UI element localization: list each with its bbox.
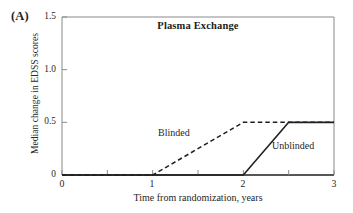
chart-title: Plasma Exchange bbox=[62, 20, 334, 31]
axis-ticks bbox=[62, 17, 334, 175]
series-annotation-blinded: Blinded bbox=[158, 127, 190, 138]
x-tick-label: 3 bbox=[322, 178, 346, 189]
x-axis-label: Time from randomization, years bbox=[62, 192, 334, 203]
figure-panel-a: (A) Plasma Exchange Median change in EDS… bbox=[0, 0, 353, 213]
series-annotation-unblinded: Unblinded bbox=[272, 140, 314, 151]
axes-group bbox=[62, 17, 334, 175]
y-tick-label: 1.5 bbox=[30, 11, 56, 21]
y-tick-label: 0.5 bbox=[30, 116, 56, 126]
panel-label: (A) bbox=[11, 9, 29, 24]
y-axis-label: Median change in EDSS scores bbox=[29, 14, 40, 174]
x-tick-label: 1 bbox=[140, 178, 164, 189]
x-tick-label: 0 bbox=[50, 178, 74, 189]
y-tick-label: 1.0 bbox=[30, 64, 56, 74]
x-tick-label: 2 bbox=[231, 178, 255, 189]
